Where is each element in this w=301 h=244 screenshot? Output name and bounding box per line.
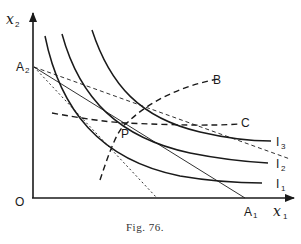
svg-text:1: 1 [281, 184, 286, 193]
svg-text:A: A [16, 60, 24, 74]
indifference-curve-i2 [62, 34, 268, 163]
point-a1-label: A 1 [244, 205, 258, 220]
curve-label-i3: I 3 [276, 135, 286, 151]
svg-text:A: A [244, 205, 252, 219]
svg-text:1: 1 [283, 212, 288, 221]
point-b-label: B [213, 73, 221, 87]
curve-label-i2: I 2 [276, 157, 286, 173]
economics-diagram: x 2 x 1 O A 2 A 1 P B C I 3 I 2 I 1 Fig.… [0, 0, 301, 244]
x-axis-label: x 1 [273, 203, 288, 221]
point-a2-label: A 2 [16, 60, 30, 75]
curve-label-i1: I 1 [276, 177, 286, 193]
budget-line-dotted [34, 67, 157, 198]
origin-label: O [15, 195, 24, 209]
y-axis-label: x 2 [6, 11, 20, 29]
svg-text:2: 2 [25, 66, 30, 75]
figure-caption: Fig. 76. [126, 221, 164, 233]
svg-text:1: 1 [253, 211, 258, 220]
svg-text:x: x [6, 11, 14, 27]
svg-text:I: I [276, 177, 279, 191]
point-p-label: P [121, 127, 129, 141]
curve-p-b [100, 79, 218, 180]
svg-text:x: x [273, 203, 281, 219]
svg-text:I: I [276, 157, 279, 171]
svg-text:2: 2 [15, 20, 20, 29]
svg-text:2: 2 [281, 164, 286, 173]
svg-text:I: I [276, 135, 279, 149]
point-c-label: C [241, 116, 250, 130]
svg-text:3: 3 [281, 142, 286, 151]
